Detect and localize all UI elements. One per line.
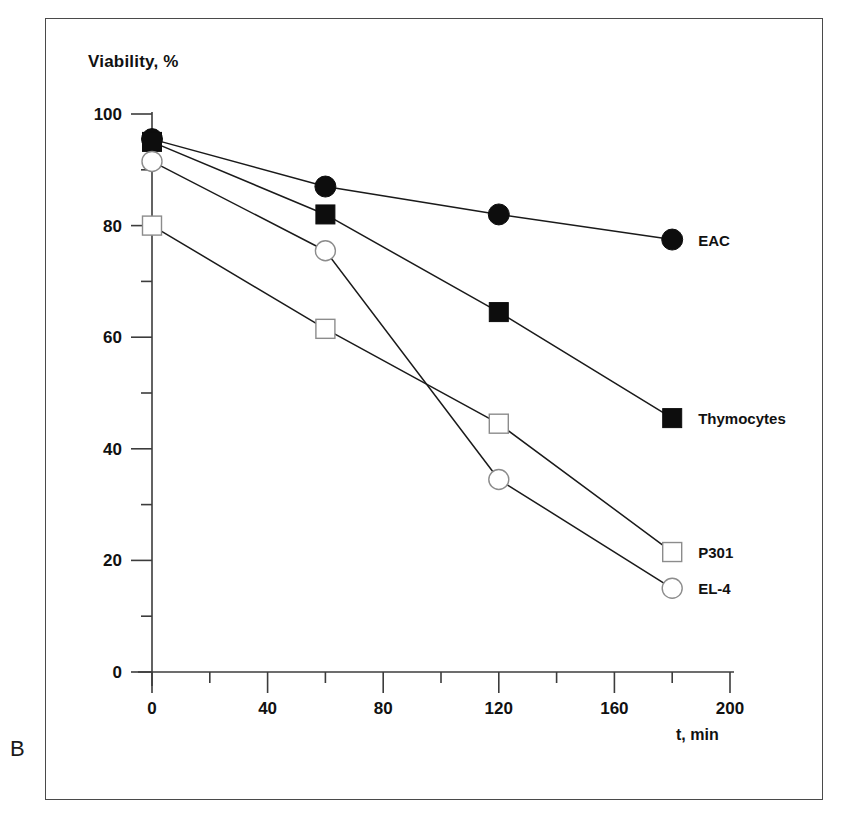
y-tick-label: 20: [103, 552, 122, 569]
series-eac: [142, 129, 683, 250]
y-tick-label: 80: [103, 217, 122, 234]
data-point-marker: [663, 409, 682, 428]
data-point-marker: [315, 176, 336, 197]
series-line: [152, 139, 672, 239]
series-line: [152, 226, 672, 552]
data-point-marker: [663, 543, 682, 562]
data-point-marker: [662, 229, 683, 250]
data-point-marker: [316, 205, 335, 224]
data-point-marker: [143, 132, 162, 151]
data-point-marker: [489, 414, 508, 433]
series-line: [152, 161, 672, 588]
data-point-marker: [488, 204, 509, 225]
y-tick-label: 0: [113, 664, 122, 681]
x-tick-label: 80: [374, 700, 393, 717]
axes-layer: [131, 112, 734, 693]
figure-panel-b: B Viability, % t, min 020406080100040801…: [0, 0, 857, 827]
data-point-marker: [489, 303, 508, 322]
x-tick-label: 0: [147, 700, 156, 717]
y-tick-label: 60: [103, 329, 122, 346]
data-point-marker: [315, 241, 335, 261]
x-tick-label: 120: [485, 700, 513, 717]
data-point-marker: [142, 151, 162, 171]
data-point-marker: [143, 216, 162, 235]
data-point-marker: [662, 578, 682, 598]
legend-label-thymocytes: Thymocytes: [698, 411, 786, 426]
x-tick-label: 160: [600, 700, 628, 717]
y-tick-label: 40: [103, 440, 122, 457]
x-tick-label: 200: [716, 700, 744, 717]
data-point-marker: [489, 469, 509, 489]
legend-label-eac: EAC: [698, 232, 730, 247]
legend-label-el-4: EL-4: [698, 581, 731, 596]
y-tick-label: 100: [94, 106, 122, 123]
series-layer: [142, 129, 683, 599]
legend-label-p301: P301: [698, 545, 733, 560]
x-tick-label: 40: [258, 700, 277, 717]
data-point-marker: [316, 319, 335, 338]
series-p301: [143, 216, 682, 561]
series-thymocytes: [143, 132, 682, 427]
